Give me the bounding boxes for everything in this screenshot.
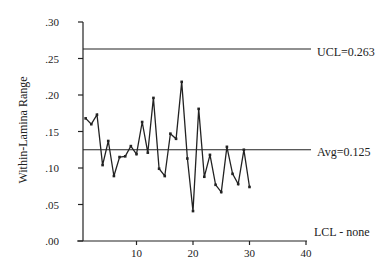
data-point [163, 175, 166, 178]
series-line [86, 82, 250, 211]
x-tick-label: 30 [244, 247, 256, 259]
data-point [130, 145, 133, 148]
data-point [147, 151, 150, 154]
data-point [175, 138, 178, 141]
x-tick-label: 20 [188, 247, 200, 259]
ucl-label: UCL=0.263 [317, 45, 375, 59]
x-tick-label: 40 [301, 247, 313, 259]
data-point [226, 146, 229, 149]
y-axis: .00.05.10.15.20.25.30 [45, 16, 83, 247]
data-point [113, 175, 116, 178]
lcl-label: LCL - none [314, 225, 370, 239]
data-point [107, 140, 110, 143]
x-axis: 10203040 [77, 241, 312, 259]
data-point [243, 148, 246, 151]
data-point [158, 167, 161, 170]
avg-label: Avg=0.125 [317, 145, 371, 159]
data-point [197, 108, 200, 111]
data-point [135, 153, 138, 156]
y-tick-label: .15 [45, 126, 59, 138]
data-point [152, 97, 155, 100]
y-tick-label: .20 [45, 89, 59, 101]
data-point [141, 121, 144, 124]
data-point [220, 191, 223, 194]
y-tick-label: .05 [45, 199, 59, 211]
y-tick-label: .25 [45, 53, 59, 65]
data-point [186, 157, 189, 160]
control-chart: .00.05.10.15.20.25.30 10203040 Within-La… [0, 0, 390, 279]
data-point [214, 183, 217, 186]
data-point [209, 154, 212, 157]
y-tick-label: .30 [45, 16, 59, 28]
data-point [101, 164, 104, 167]
data-point [231, 173, 234, 176]
data-point [90, 123, 93, 126]
data-point [248, 186, 251, 189]
data-series [84, 81, 250, 213]
x-tick-label: 10 [131, 247, 143, 259]
data-point [118, 156, 121, 159]
data-point [237, 183, 240, 186]
y-axis-title: Within-Lamina Range [16, 76, 30, 183]
data-point [203, 175, 206, 178]
data-point [180, 81, 183, 84]
data-point [124, 155, 127, 158]
data-point [169, 132, 172, 135]
data-point [96, 113, 99, 116]
data-point [84, 117, 87, 120]
data-point [192, 210, 195, 213]
y-tick-label: .10 [45, 162, 59, 174]
y-tick-label: .00 [45, 235, 59, 247]
